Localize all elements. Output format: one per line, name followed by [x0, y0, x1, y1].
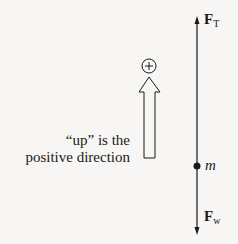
- force-weight-label: Fw: [204, 208, 220, 226]
- caption-line-1: “up” is the: [66, 132, 130, 149]
- arrowhead-up-icon: [195, 16, 200, 24]
- caption-line-2: positive direction: [25, 149, 130, 166]
- mass-dot: [194, 163, 201, 170]
- force-tension-label: FT: [204, 11, 219, 29]
- arrowhead-down-icon: [195, 227, 200, 235]
- hollow-up-arrow-icon: [139, 77, 160, 158]
- mass-label: m: [205, 157, 216, 174]
- free-body-diagram: [0, 0, 238, 244]
